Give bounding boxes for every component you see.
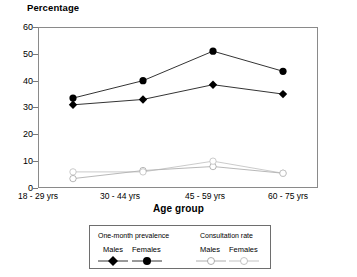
- y-axis-tick-mark: [33, 188, 38, 189]
- y-axis-tick-label-30: 30: [3, 103, 33, 112]
- y-axis-tick-label-60: 60: [3, 23, 33, 32]
- chart-container: Percentage 60 50 40 30 20 10 0 18 - 29 y…: [0, 0, 357, 277]
- legend-group-title-prevalence: One-month prevalence: [98, 232, 169, 239]
- legend-label-prevalence-males: Males: [103, 245, 123, 254]
- y-axis-tick-label-10: 10: [3, 157, 33, 166]
- chart-legend: One-month prevalence Consultation rate M…: [89, 225, 271, 269]
- legend-label-consultation-males: Males: [200, 245, 220, 254]
- x-axis-tick-label-4: 60 - 75 yrs: [248, 191, 328, 201]
- legend-marker-filled-circle-icon: [130, 254, 164, 268]
- legend-marker-open-circle-females-icon: [227, 254, 261, 268]
- legend-marker-filled-diamond-icon: [96, 254, 130, 268]
- y-axis-tick-label-40: 40: [3, 77, 33, 86]
- legend-group-title-consultation: Consultation rate: [200, 232, 253, 239]
- legend-marker-open-circle-males-icon: [194, 254, 228, 268]
- x-axis-tick-label-3: 45 - 59 yrs: [165, 191, 245, 201]
- legend-label-consultation-females: Females: [229, 245, 258, 254]
- x-axis-title: Age group: [0, 203, 357, 214]
- y-axis-title: Percentage: [27, 2, 79, 13]
- x-axis-tick-label-2: 30 - 44 yrs: [80, 191, 160, 201]
- legend-label-prevalence-females: Females: [132, 245, 161, 254]
- x-axis-tick-label-1: 18 - 29 yrs: [0, 191, 78, 201]
- y-axis-tick-label-20: 20: [3, 130, 33, 139]
- plot-frame: [38, 27, 318, 188]
- y-axis-tick-label-50: 50: [3, 50, 33, 59]
